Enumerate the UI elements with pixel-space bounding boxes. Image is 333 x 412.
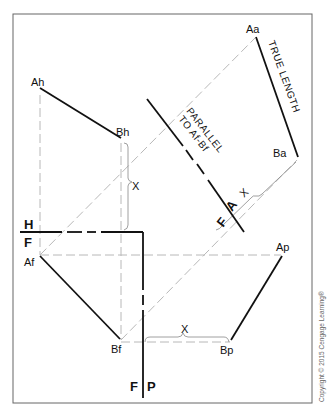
fold-line-af-2 [186,150,193,160]
projection-bf-ba [121,160,297,340]
true-length-label: TRUE LENGTH [266,39,302,114]
line-af-bf [40,256,120,339]
label-bf: Bf [111,343,122,355]
plane-label-f-left: F [24,235,32,250]
fold-line-af-1 [147,99,183,146]
brace-horizontal-view [124,143,132,230]
object-lines [40,37,298,340]
dimension-x-auxiliary: X [237,185,251,199]
copyright-notice: Copyright © 2015 Cengage Learning® [318,291,326,402]
label-aa: Aa [246,23,260,35]
label-ba: Ba [273,147,287,159]
plane-label-f-aux: F [214,214,231,230]
plane-label-h: H [24,217,33,232]
dimension-braces [124,143,296,342]
drawing-border [13,14,312,403]
label-bh: Bh [116,126,129,138]
line-ap-bp [231,256,282,340]
fold-line-af-3 [197,164,204,174]
label-bp: Bp [220,344,233,356]
label-ap: Ap [276,241,289,253]
line-ah-bh [40,88,121,138]
dimension-x-profile: X [181,323,189,335]
label-af: Af [24,256,35,268]
brace-auxiliary-view [216,162,296,230]
plane-label-a: A [223,197,241,214]
plane-label-f-bottom: F [130,379,138,394]
auxiliary-view-diagram: Ah Bh Aa Ba Af Bf Ap Bp X X X TRUE LENGT… [0,0,333,412]
plane-label-p: P [147,379,156,394]
dimension-x-horizontal: X [132,180,140,192]
label-ah: Ah [31,76,44,88]
